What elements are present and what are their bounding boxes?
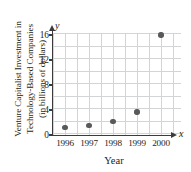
data-point-1998 — [110, 119, 115, 124]
plot-area — [53, 33, 181, 135]
y-tick-label-0: 0 — [33, 130, 49, 140]
x-axis-title: Year — [53, 155, 175, 166]
y-tick-label-8: 8 — [33, 80, 49, 90]
y-tick-mark — [49, 134, 53, 135]
gridline-horizontal-minor — [53, 96, 181, 97]
y-tick-mark — [49, 34, 53, 35]
y-tick-mark — [49, 109, 53, 110]
data-point-1999 — [134, 109, 139, 114]
y-tick-label-12: 12 — [33, 55, 49, 65]
scatter-plot-figure: Venture Capitalist Investment in Technol… — [0, 0, 191, 172]
gridline-horizontal-minor — [53, 46, 181, 47]
y-axis-line — [52, 30, 53, 136]
y-tick-label-16: 16 — [33, 30, 49, 40]
data-point-1996 — [62, 125, 67, 130]
x-tick-label-2000: 2000 — [147, 138, 175, 148]
data-point-2000 — [158, 32, 163, 37]
y-axis-variable-label: y — [55, 20, 59, 31]
gridline-horizontal — [53, 58, 181, 59]
y-tick-label-4: 4 — [33, 105, 49, 115]
gridline-horizontal — [53, 83, 181, 84]
x-axis-line — [52, 135, 172, 136]
y-tick-mark — [49, 84, 53, 85]
x-axis-arrow-icon — [171, 132, 177, 138]
x-axis-variable-label: x — [179, 128, 183, 139]
gridline-horizontal-minor — [53, 71, 181, 72]
y-tick-mark — [49, 59, 53, 60]
data-point-1997 — [86, 123, 91, 128]
gridline-horizontal — [53, 108, 181, 109]
gridline-horizontal-minor — [53, 121, 181, 122]
